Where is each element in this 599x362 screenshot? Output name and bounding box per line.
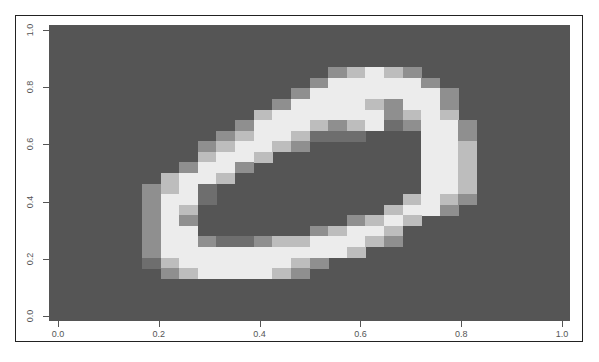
- pixel-cell: [198, 141, 217, 152]
- pixel-cell: [403, 67, 422, 78]
- y-tick: [43, 259, 49, 260]
- pixel-cell: [235, 131, 254, 142]
- pixel-cell: [328, 131, 347, 142]
- pixel-cell: [216, 131, 235, 142]
- pixel-cell: [291, 110, 310, 121]
- pixel-cell: [440, 120, 459, 131]
- pixel-cell: [440, 184, 459, 195]
- pixel-cell: [198, 152, 217, 163]
- pixel-cell: [142, 215, 161, 226]
- pixel-cell: [403, 215, 422, 226]
- x-tick-label: 1.0: [556, 329, 569, 339]
- pixel-cell: [291, 120, 310, 131]
- pixel-cell: [458, 194, 477, 205]
- pixel-cell: [347, 67, 366, 78]
- pixel-cell: [347, 215, 366, 226]
- pixel-cell: [365, 110, 384, 121]
- x-tick: [461, 321, 462, 327]
- pixel-cell: [179, 184, 198, 195]
- pixel-cell: [365, 78, 384, 89]
- pixel-cell: [198, 194, 217, 205]
- pixel-cell: [254, 131, 273, 142]
- pixel-cell: [421, 184, 440, 195]
- pixel-cell: [458, 152, 477, 163]
- pixel-cell: [142, 205, 161, 216]
- pixel-cell: [235, 141, 254, 152]
- pixel-cell: [142, 226, 161, 237]
- pixel-cell: [291, 99, 310, 110]
- pixel-cell: [216, 141, 235, 152]
- pixel-cell: [272, 236, 291, 247]
- pixel-cell: [365, 120, 384, 131]
- y-tick-label: 0.2: [25, 253, 35, 266]
- pixel-cell: [254, 152, 273, 163]
- pixel-cell: [347, 247, 366, 258]
- pixel-cell: [291, 247, 310, 258]
- pixel-cell: [440, 99, 459, 110]
- y-tick-label: 0.4: [25, 195, 35, 208]
- pixel-cell: [291, 141, 310, 152]
- pixel-cell: [310, 99, 329, 110]
- x-tick: [260, 321, 261, 327]
- pixel-cell: [291, 236, 310, 247]
- pixel-cell: [384, 110, 403, 121]
- x-tick-label: 0.4: [253, 329, 266, 339]
- pixel-cell: [272, 131, 291, 142]
- pixel-cell: [310, 131, 329, 142]
- pixel-cell: [161, 226, 180, 237]
- pixel-cell: [254, 258, 273, 269]
- pixel-cell: [421, 131, 440, 142]
- pixel-cell: [161, 184, 180, 195]
- pixel-cell: [403, 88, 422, 99]
- pixel-cell: [384, 215, 403, 226]
- pixel-cell: [161, 215, 180, 226]
- pixel-cell: [440, 110, 459, 121]
- pixel-cell: [161, 258, 180, 269]
- pixel-cell: [161, 205, 180, 216]
- pixel-cell: [254, 268, 273, 279]
- pixel-cell: [272, 268, 291, 279]
- pixel-cell: [458, 141, 477, 152]
- pixel-cell: [142, 258, 161, 269]
- pixel-cell: [403, 78, 422, 89]
- pixel-cell: [198, 184, 217, 195]
- pixel-cell: [347, 226, 366, 237]
- pixel-cell: [254, 236, 273, 247]
- x-tick: [562, 321, 563, 327]
- pixel-cell: [384, 78, 403, 89]
- pixel-cell: [310, 236, 329, 247]
- pixel-cell: [440, 162, 459, 173]
- pixel-cell: [179, 194, 198, 205]
- pixel-cell: [328, 120, 347, 131]
- pixel-cell: [310, 120, 329, 131]
- pixel-cell: [347, 88, 366, 99]
- pixel-cell: [310, 110, 329, 121]
- pixel-cell: [216, 162, 235, 173]
- pixel-cell: [440, 194, 459, 205]
- pixel-cell: [179, 268, 198, 279]
- pixel-cell: [216, 247, 235, 258]
- x-tick-label: 0.8: [455, 329, 468, 339]
- pixel-cell: [421, 194, 440, 205]
- pixel-cell: [179, 258, 198, 269]
- pixel-cell: [310, 78, 329, 89]
- pixel-cell: [403, 120, 422, 131]
- pixel-cell: [198, 247, 217, 258]
- pixel-cell: [235, 162, 254, 173]
- y-tick: [43, 87, 49, 88]
- pixel-cell: [216, 173, 235, 184]
- y-tick: [43, 30, 49, 31]
- pixel-cell: [384, 226, 403, 237]
- pixel-cell: [403, 205, 422, 216]
- pixel-cell: [291, 131, 310, 142]
- pixel-cell: [254, 247, 273, 258]
- pixel-cell: [328, 78, 347, 89]
- pixel-cell: [440, 205, 459, 216]
- pixel-cell: [458, 120, 477, 131]
- pixel-cell: [365, 67, 384, 78]
- pixel-cell: [365, 88, 384, 99]
- pixel-cell: [310, 247, 329, 258]
- pixel-cell: [310, 258, 329, 269]
- pixel-cell: [347, 78, 366, 89]
- pixel-cell: [458, 131, 477, 142]
